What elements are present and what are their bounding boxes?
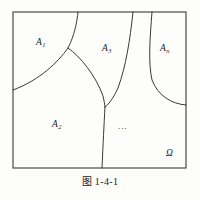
region-label-a1: A1: [36, 38, 45, 48]
region-label-a3-sub: 3: [108, 47, 111, 54]
omega-frame-rect: [13, 12, 186, 168]
omega-universe-label: Ω: [166, 149, 173, 159]
curve-a3-left-boundary: [105, 12, 133, 107]
region-label-an-sub: n: [166, 47, 169, 54]
figure-caption: 图 1-4-1: [0, 177, 200, 187]
curve-bottom-stem: [102, 107, 105, 168]
region-label-a2-sub: 2: [58, 123, 61, 130]
region-label-an: An: [160, 44, 169, 54]
region-label-a2: A2: [52, 120, 61, 130]
curve-an-left-boundary: [150, 12, 186, 105]
region-label-a1-sub: 1: [42, 41, 45, 48]
region-label-a3: A3: [102, 44, 111, 54]
ellipsis-label: ...: [118, 122, 127, 131]
curve-a1-a2-a3-divider: [68, 48, 105, 107]
partition-diagram: [0, 0, 200, 200]
curve-a1-boundary: [13, 12, 78, 90]
figure-container: A1 A2 A3 An ... Ω 图 1-4-1: [0, 0, 200, 200]
